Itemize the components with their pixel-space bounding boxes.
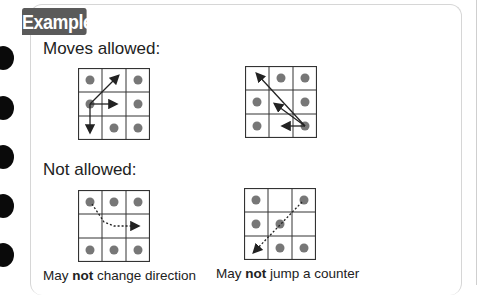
caption-not-allowed-1: May not change direction <box>43 268 196 283</box>
example-tab: Example <box>22 8 87 35</box>
binder-hole <box>0 243 14 267</box>
binder-hole <box>0 194 14 218</box>
diagram-allowed-2 <box>245 66 317 138</box>
diagram-not-allowed-2 <box>244 188 316 260</box>
binder-holes <box>0 0 20 285</box>
binder-hole <box>0 96 14 120</box>
diagram-allowed-1 <box>78 68 150 140</box>
caption-not-allowed-2: May not jump a counter <box>216 266 359 281</box>
binder-hole <box>0 46 14 70</box>
not-allowed-heading: Not allowed: <box>43 160 137 180</box>
diagram-not-allowed-1 <box>78 190 150 262</box>
binder-hole <box>0 145 14 169</box>
page-edge <box>476 0 477 285</box>
allowed-heading: Moves allowed: <box>43 39 160 59</box>
